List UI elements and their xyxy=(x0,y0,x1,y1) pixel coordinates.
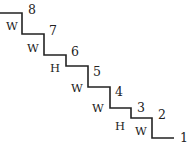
step-label-h: H xyxy=(115,120,125,132)
step-number-2: 2 xyxy=(158,109,166,121)
step-label-w: W xyxy=(92,102,104,114)
step-number-5: 5 xyxy=(93,66,101,78)
step-label-w: W xyxy=(135,125,147,137)
step-number-3: 3 xyxy=(137,102,145,114)
step-number-8: 8 xyxy=(28,4,36,16)
step-label-h: H xyxy=(50,62,60,74)
staircase-line xyxy=(0,13,174,138)
step-label-w: W xyxy=(71,82,83,94)
step-number-6: 6 xyxy=(71,46,79,58)
step-number-7: 7 xyxy=(49,25,57,37)
step-number-4: 4 xyxy=(115,86,123,98)
staircase-diagram: 8 7 6 5 4 3 2 1 W W H W W H W xyxy=(0,0,193,147)
step-label-w: W xyxy=(27,42,39,54)
step-label-w: W xyxy=(6,20,18,32)
step-number-1: 1 xyxy=(180,132,188,144)
